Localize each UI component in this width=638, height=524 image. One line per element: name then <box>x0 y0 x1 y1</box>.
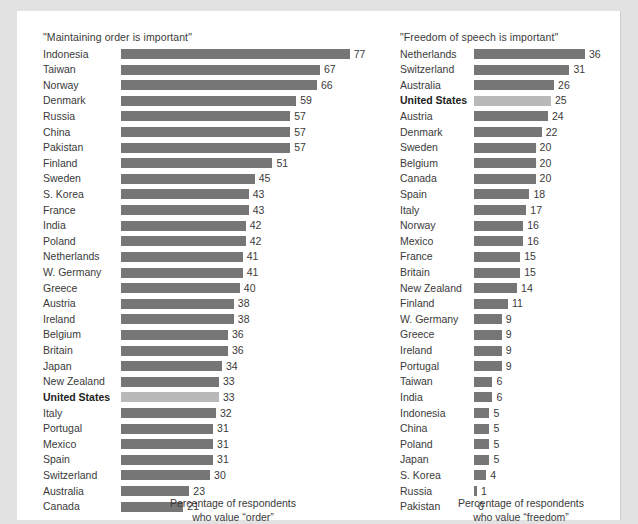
bar <box>121 283 240 293</box>
bar-row-label: Spain <box>43 453 70 466</box>
bar-row-label: Japan <box>400 453 429 466</box>
bar-row: Sweden45 <box>17 172 377 188</box>
bar-row-label: Switzerland <box>400 63 454 76</box>
bar-row: S. Korea4 <box>380 468 621 484</box>
bar <box>121 361 222 371</box>
bar <box>474 221 523 231</box>
bar-row: Denmark59 <box>17 94 377 110</box>
axis-caption-speech-line2: who value “freedom” <box>416 511 626 524</box>
bar-row-label: Norway <box>43 79 79 92</box>
bar-row-label: New Zealand <box>400 282 462 295</box>
bar-row-label: Denmark <box>400 126 443 139</box>
bar-row-label: Canada <box>400 172 437 185</box>
bar <box>121 408 216 418</box>
bar-rows-order: Indonesia77Taiwan67Norway66Denmark59Russ… <box>17 47 377 515</box>
bar-row: Portugal31 <box>17 422 377 438</box>
bar-row-label: Japan <box>43 360 72 373</box>
bar <box>121 424 213 434</box>
bar-value-label: 36 <box>232 344 244 357</box>
bar-value-label: 20 <box>540 141 552 154</box>
bar-value-label: 59 <box>300 94 312 107</box>
bar <box>474 174 536 184</box>
axis-caption-speech: Percentage of respondents who value “fre… <box>416 497 626 524</box>
bar-row: New Zealand14 <box>380 281 621 297</box>
bar-value-label: 24 <box>552 110 564 123</box>
bar-row-label: Britain <box>43 344 73 357</box>
bar <box>121 455 213 465</box>
bar-value-label: 23 <box>193 485 205 498</box>
bar <box>121 470 210 480</box>
bar-row-label: Mexico <box>400 235 433 248</box>
bar-row-label: Pakistan <box>43 141 83 154</box>
bar-value-label: 36 <box>589 48 601 61</box>
bar-value-label: 5 <box>493 453 499 466</box>
bar-row-label: China <box>400 422 427 435</box>
bar-row: China5 <box>380 422 621 438</box>
bar <box>474 299 508 309</box>
bar-value-label: 40 <box>244 282 256 295</box>
bar-value-label: 15 <box>524 266 536 279</box>
bar-value-label: 34 <box>226 360 238 373</box>
bar-row: Taiwan67 <box>17 63 377 79</box>
panel-title-order: "Maintaining order is important" <box>43 31 192 43</box>
bar <box>474 80 554 90</box>
bar <box>121 346 228 356</box>
bar-value-label: 6 <box>496 391 502 404</box>
bar <box>121 439 213 449</box>
bar <box>474 330 502 340</box>
bar-row: Greece40 <box>17 281 377 297</box>
bar-row-label: France <box>43 204 76 217</box>
bar-row-label: Spain <box>400 188 427 201</box>
bar-row-label: W. Germany <box>43 266 101 279</box>
bar-row: Indonesia77 <box>17 47 377 63</box>
bar <box>474 361 502 371</box>
bar-row-label: Belgium <box>43 328 81 341</box>
bar-row-label: Netherlands <box>400 48 457 61</box>
bar-value-label: 31 <box>573 63 585 76</box>
bar-row: Greece9 <box>380 328 621 344</box>
bar-value-label: 1 <box>481 485 487 498</box>
bar-row: Switzerland30 <box>17 468 377 484</box>
bar-row-label: Greece <box>43 282 77 295</box>
bar-row: France43 <box>17 203 377 219</box>
figure-sheet: "Maintaining order is important" Indones… <box>17 11 621 520</box>
bar <box>121 111 290 121</box>
bar-row: Belgium20 <box>380 156 621 172</box>
bar-row: United States33 <box>17 390 377 406</box>
bar-value-label: 9 <box>506 313 512 326</box>
bar-row-label: Switzerland <box>43 469 97 482</box>
bar-row-label: Italy <box>400 204 419 217</box>
bar-value-label: 20 <box>540 157 552 170</box>
bar-row-label: Australia <box>43 485 84 498</box>
bar <box>474 439 489 449</box>
bar-row-label: Ireland <box>400 344 432 357</box>
bar-value-label: 36 <box>232 328 244 341</box>
bar-row: France15 <box>380 250 621 266</box>
bar-row: Belgium36 <box>17 328 377 344</box>
bar-row: Poland5 <box>380 437 621 453</box>
bar <box>474 455 489 465</box>
chart-panel-speech: "Freedom of speech is important" Netherl… <box>380 11 621 520</box>
bar <box>121 205 249 215</box>
bar-row-label: India <box>43 219 66 232</box>
bar-row: Britain15 <box>380 266 621 282</box>
bar <box>121 252 243 262</box>
bar-row: Russia57 <box>17 109 377 125</box>
bar-row-label: Taiwan <box>400 375 433 388</box>
bar-value-label: 6 <box>496 375 502 388</box>
bar <box>474 268 520 278</box>
bar-value-label: 9 <box>506 344 512 357</box>
bar-row-label: Greece <box>400 328 434 341</box>
bar <box>121 49 350 59</box>
bar-row-label: Austria <box>43 297 76 310</box>
bar-row-label: Belgium <box>400 157 438 170</box>
bar-row-label: Portugal <box>400 360 439 373</box>
bar-row: Poland42 <box>17 234 377 250</box>
bar-row-label: S. Korea <box>400 469 441 482</box>
bar-row: Mexico31 <box>17 437 377 453</box>
axis-caption-order-line1: Percentage of respondents <box>103 497 363 511</box>
bar <box>474 96 551 106</box>
bar-value-label: 57 <box>294 110 306 123</box>
bar <box>121 221 246 231</box>
bar-row: S. Korea43 <box>17 187 377 203</box>
